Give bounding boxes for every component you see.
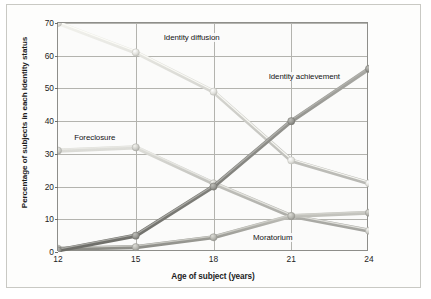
y-tick-label-10: 10 xyxy=(45,214,54,224)
data-point xyxy=(132,243,139,250)
data-point xyxy=(132,49,139,56)
x-tick-label-21: 21 xyxy=(287,254,296,264)
x-tick-label-12: 12 xyxy=(53,254,62,264)
y-tick-label-50: 50 xyxy=(45,83,54,93)
chart-figure: Percentage of subjects in each identity … xyxy=(0,0,431,299)
x-axis-title: Age of subject (years) xyxy=(48,272,378,281)
plot-area: 010203040506070 1215182124 Identity diff… xyxy=(57,22,368,251)
data-point xyxy=(288,212,295,219)
x-tick-label-18: 18 xyxy=(209,254,218,264)
series-label-identity-diffusion: Identity diffusion xyxy=(162,33,222,42)
data-point xyxy=(210,183,217,190)
series-identity-diffusion xyxy=(58,23,369,187)
data-point xyxy=(288,157,295,164)
y-axis-title: Percentage of subjects in each identity … xyxy=(20,13,29,233)
series-moratorium xyxy=(58,209,369,252)
x-tick-label-15: 15 xyxy=(131,254,140,264)
data-point xyxy=(288,118,295,125)
series-line xyxy=(58,23,369,183)
y-tick-label-30: 30 xyxy=(45,149,54,159)
data-point xyxy=(58,147,62,154)
series-label-foreclosure: Foreclosure xyxy=(72,133,117,142)
y-tick-label-40: 40 xyxy=(45,116,54,126)
y-tick-mark-0 xyxy=(55,252,58,253)
data-point xyxy=(210,234,217,241)
data-point xyxy=(365,209,369,216)
data-point xyxy=(132,232,139,239)
y-tick-label-20: 20 xyxy=(45,182,54,192)
y-tick-label-70: 70 xyxy=(45,18,54,28)
series-label-identity-achievement: Identity achievement xyxy=(267,72,342,81)
x-tick-label-24: 24 xyxy=(364,254,373,264)
data-point xyxy=(132,144,139,151)
y-tick-label-60: 60 xyxy=(45,51,54,61)
data-point xyxy=(210,88,217,95)
series-label-moratorium: Moratorium xyxy=(251,233,294,242)
